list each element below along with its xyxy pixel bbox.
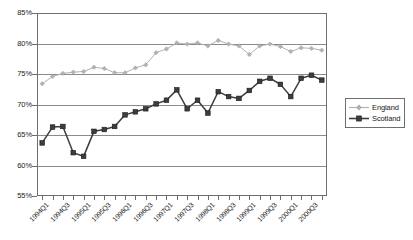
data-point [226, 94, 231, 99]
legend-label-england: England [372, 103, 399, 112]
data-point [309, 73, 314, 78]
x-axis-tick-mark [239, 196, 240, 200]
data-point [164, 47, 168, 51]
x-axis-tick-mark [249, 196, 250, 200]
data-point [185, 42, 189, 46]
x-axis-tick-label: 2000Q3 [297, 201, 320, 224]
data-point [92, 65, 96, 69]
x-axis-tick-label: 1997Q3 [173, 201, 196, 224]
x-axis-tick-mark [270, 196, 271, 200]
data-point [164, 98, 169, 103]
y-axis-tick-label: 75% [0, 70, 32, 78]
data-point [71, 150, 76, 155]
data-point [299, 76, 304, 81]
data-point [320, 78, 325, 83]
data-point [175, 41, 179, 45]
data-point [268, 42, 272, 46]
x-axis-tick-mark [115, 196, 116, 200]
x-axis-tick-label: 2000Q1 [277, 201, 300, 224]
x-axis-tick-mark [260, 196, 261, 200]
x-axis-tick-mark [94, 196, 95, 200]
data-point [216, 89, 221, 94]
x-axis-tick-label: 1999Q1 [235, 201, 258, 224]
data-point [133, 66, 137, 70]
x-axis-tick-label: 1998Q1 [194, 201, 217, 224]
series-scotland [40, 73, 324, 159]
x-axis-tick-mark [73, 196, 74, 200]
data-point [154, 102, 159, 107]
line-chart: 55%60%65%70%75%80%85% 1994Q11994Q31995Q1… [0, 0, 413, 240]
legend: England Scotland [345, 98, 405, 128]
x-axis-tick-mark [280, 196, 281, 200]
data-point [123, 113, 128, 118]
x-axis-tick-mark [301, 196, 302, 200]
data-point [71, 70, 75, 74]
data-point [247, 88, 252, 93]
x-axis-tick-mark [322, 196, 323, 200]
data-point [81, 154, 86, 159]
data-point [123, 71, 127, 75]
x-axis-tick-mark [198, 196, 199, 200]
x-axis-tick-mark [156, 196, 157, 200]
data-point [289, 49, 293, 53]
x-axis-tick-mark [53, 196, 54, 200]
data-point [195, 98, 200, 103]
x-axis-tick-mark [187, 196, 188, 200]
legend-item-england: England [349, 102, 400, 113]
data-point [237, 96, 242, 101]
y-axis-tick-label: 70% [0, 101, 32, 109]
data-point [92, 129, 97, 134]
data-point [102, 66, 106, 70]
data-point [81, 69, 85, 73]
x-axis-tick-label: 1994Q3 [49, 201, 72, 224]
x-axis-tick-label: 1996Q3 [132, 201, 155, 224]
data-point [278, 82, 283, 87]
y-axis-tick-label: 65% [0, 131, 32, 139]
x-axis-tick-label: 1997Q1 [152, 201, 175, 224]
y-axis-tick-label: 60% [0, 162, 32, 170]
data-point [195, 41, 199, 45]
y-axis-tick-label: 85% [0, 9, 32, 17]
data-point [226, 42, 230, 46]
series-england [40, 38, 324, 86]
x-axis-tick-mark [104, 196, 105, 200]
data-point [50, 125, 55, 130]
y-axis-tick-label: 55% [0, 192, 32, 200]
x-axis-tick-mark [177, 196, 178, 200]
data-point [175, 88, 180, 93]
data-point [216, 38, 220, 42]
data-point [268, 76, 273, 81]
x-axis-tick-mark [208, 196, 209, 200]
data-point [112, 71, 116, 75]
data-point [206, 111, 211, 116]
legend-item-scotland: Scotland [349, 113, 400, 124]
data-point [309, 46, 313, 50]
data-point [112, 124, 117, 129]
x-axis-tick-mark [166, 196, 167, 200]
y-axis-tick-mark [32, 196, 37, 197]
data-point [278, 44, 282, 48]
series-line [42, 75, 322, 156]
x-axis-tick-label: 1996Q1 [111, 201, 134, 224]
data-point [61, 71, 65, 75]
data-point [206, 44, 210, 48]
data-point [257, 79, 262, 84]
x-axis-tick-mark [84, 196, 85, 200]
x-axis-tick-mark [42, 196, 43, 200]
x-axis-tick-mark [125, 196, 126, 200]
x-axis-tick-label: 1994Q1 [28, 201, 51, 224]
x-axis-tick-label: 1995Q3 [90, 201, 113, 224]
x-axis-tick-label: 1998Q3 [215, 201, 238, 224]
england-legend-swatch [349, 103, 369, 112]
data-point [40, 141, 45, 146]
data-point [61, 124, 66, 129]
data-point [133, 110, 138, 115]
data-point [320, 48, 324, 52]
x-axis-tick-mark [229, 196, 230, 200]
data-point [143, 106, 148, 111]
x-axis-tick-mark [291, 196, 292, 200]
data-point [299, 46, 303, 50]
legend-label-scotland: Scotland [372, 114, 400, 123]
x-axis-tick-mark [146, 196, 147, 200]
data-point [102, 127, 107, 132]
